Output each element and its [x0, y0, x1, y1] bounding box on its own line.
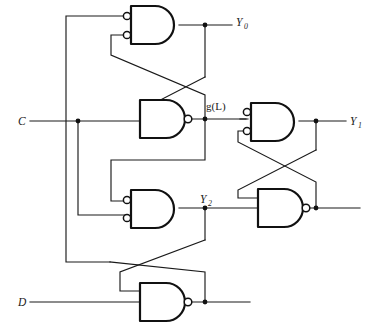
output-label-y0-base: Y: [236, 16, 244, 28]
gate-y1-input-bubble-top: [243, 108, 250, 115]
gate-y0-body: [131, 6, 174, 44]
wire-y0-top-input-leftrail: [66, 16, 125, 262]
junction-dot: [203, 300, 208, 305]
gate-lower-right-nand[interactable]: [258, 189, 310, 227]
gate-gl[interactable]: [140, 100, 192, 138]
output-label-y2: Y 2: [200, 193, 212, 208]
output-label-y2-subscript: 2: [208, 199, 212, 208]
junction-dot: [203, 23, 208, 28]
gate-y2[interactable]: [123, 190, 174, 228]
gate-y0[interactable]: [123, 6, 174, 44]
output-label-y1-base: Y: [350, 115, 358, 127]
wire-layer: [30, 16, 360, 302]
logic-circuit-figure: C D Y 0 Y 1 Y 2 g(L): [0, 0, 377, 328]
junction-dot: [314, 119, 319, 124]
output-label-y0-subscript: 0: [244, 22, 248, 31]
gate-y1[interactable]: [243, 103, 294, 141]
junction-dot: [76, 119, 81, 124]
output-label-y2-base: Y: [200, 193, 208, 205]
gate-y1-body: [251, 103, 294, 141]
gate-y2-input-bubble-bottom: [123, 214, 130, 221]
input-label-c: C: [18, 115, 26, 127]
signal-label-gl: g(L): [206, 100, 226, 113]
gate-y2-input-bubble-top: [123, 196, 130, 203]
junction-dot: [203, 117, 208, 122]
junction-dot: [314, 206, 319, 211]
gate-y0-input-bubble-top: [123, 12, 130, 19]
output-label-y0: Y 0: [236, 16, 248, 31]
gate-bottom-nand[interactable]: [140, 283, 192, 321]
input-label-d: D: [17, 296, 27, 308]
gate-y0-input-bubble-bottom: [123, 31, 130, 38]
gate-lower-right-nand-output-bubble: [302, 204, 310, 212]
gate-lower-right-nand-body: [258, 189, 303, 227]
output-label-y1: Y 1: [350, 115, 362, 130]
gate-gl-output-bubble: [184, 115, 192, 123]
gate-bottom-nand-output-bubble: [184, 298, 192, 306]
output-label-y1-subscript: 1: [358, 121, 362, 130]
junction-dot: [203, 206, 208, 211]
gate-bottom-nand-body: [140, 283, 185, 321]
gate-y1-input-bubble-bottom: [243, 127, 250, 134]
circuit-diagram-canvas: C D Y 0 Y 1 Y 2 g(L): [0, 0, 377, 328]
gate-gl-body: [140, 100, 185, 138]
gate-y2-body: [131, 190, 174, 228]
